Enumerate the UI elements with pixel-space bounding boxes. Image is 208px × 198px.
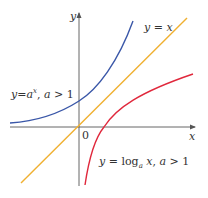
- exponential-curve: [10, 21, 133, 123]
- log-label-base: a: [139, 162, 143, 170]
- exp-label-cond-op: >: [54, 88, 63, 101]
- logarithm-curve-label: y = loga x, a > 1: [99, 156, 189, 170]
- origin-label: 0: [82, 130, 89, 141]
- exp-label-cond-val: 1: [67, 88, 74, 101]
- log-label-eq: =: [109, 155, 118, 168]
- identity-curve-label: y = x: [144, 22, 173, 33]
- function-graph-figure: y x 0 y = x y=ax, a > 1 y = loga x, a > …: [0, 0, 208, 198]
- log-label-y: y: [99, 155, 105, 168]
- y-axis-label: y: [70, 11, 76, 22]
- log-label-sep: ,: [153, 155, 157, 168]
- identity-label-y: y: [144, 21, 150, 34]
- log-label-cond-op: >: [170, 155, 179, 168]
- exp-label-sep: ,: [37, 88, 41, 101]
- identity-label-eq: =: [154, 21, 163, 34]
- log-label-fn: log: [121, 155, 138, 168]
- x-axis-label: x: [189, 131, 195, 142]
- log-label-cond-val: 1: [182, 155, 189, 168]
- log-label-cond-var: a: [160, 155, 167, 168]
- exponential-curve-label: y=ax, a > 1: [11, 88, 74, 100]
- identity-label-rhs: x: [166, 21, 172, 34]
- exp-label-cond-var: a: [44, 88, 51, 101]
